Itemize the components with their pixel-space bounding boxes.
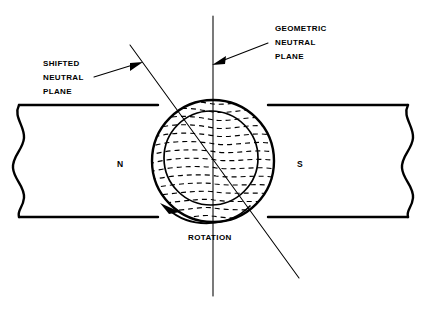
shifted-label-line-2: NEUTRAL — [43, 73, 84, 82]
technical-diagram: GEOMETRIC NEUTRAL PLANE SHIFTED NEUTRAL … — [0, 0, 427, 316]
figure-canvas: GEOMETRIC NEUTRAL PLANE SHIFTED NEUTRAL … — [0, 0, 427, 316]
armature-assembly — [146, 94, 283, 222]
right-break-squiggle — [402, 105, 413, 217]
north-pole-piece — [13, 105, 158, 217]
south-pole-piece — [268, 105, 413, 217]
shifted-neutral-plane-label: SHIFTED NEUTRAL PLANE — [43, 59, 84, 96]
geometric-neutral-plane-label: GEOMETRIC NEUTRAL PLANE — [275, 24, 327, 61]
geometric-plane-leader — [212, 43, 268, 65]
shifted-plane-leader — [94, 62, 143, 77]
geometric-label-line-2: NEUTRAL — [275, 38, 316, 47]
shifted-label-line-1: SHIFTED — [43, 59, 80, 68]
south-pole-label: S — [297, 159, 303, 169]
geometric-label-line-3: PLANE — [275, 52, 304, 61]
rotation-label: ROTATION — [188, 233, 232, 242]
shifted-label-line-3: PLANE — [43, 87, 72, 96]
geometric-label-line-1: GEOMETRIC — [275, 24, 327, 33]
north-pole-label: N — [117, 159, 123, 169]
left-break-squiggle — [13, 105, 24, 217]
